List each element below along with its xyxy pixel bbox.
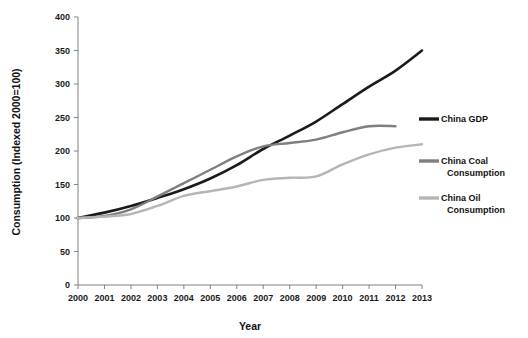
x-tick-label: 2008 [280, 293, 300, 303]
x-tick-label: 2006 [227, 293, 247, 303]
y-tick-label: 200 [55, 146, 70, 156]
x-tick-label: 2009 [306, 293, 326, 303]
x-tick-label: 2001 [94, 293, 114, 303]
y-tick-label: 250 [55, 113, 70, 123]
y-tick-label: 350 [55, 46, 70, 56]
legend-item-china-gdp[interactable]: China GDP [419, 114, 488, 124]
legend-label-china-oil-consumption: China Oil [441, 193, 481, 203]
x-tick-label: 2013 [412, 293, 432, 303]
x-tick-label: 2011 [359, 293, 379, 303]
legend-label-china-oil-consumption-line2: Consumption [447, 205, 505, 215]
x-tick-label: 2005 [200, 293, 220, 303]
y-axis: 050100150200250300350400 [55, 12, 78, 290]
series-lines [78, 51, 422, 219]
chart-legend: China GDPChina CoalConsumptionChina OilC… [419, 114, 505, 215]
x-tick-label: 2003 [147, 293, 167, 303]
x-tick-label: 2004 [174, 293, 194, 303]
x-tick-label: 2007 [253, 293, 273, 303]
y-tick-label: 300 [55, 79, 70, 89]
y-tick-label: 50 [60, 247, 70, 257]
x-tick-label: 2002 [121, 293, 141, 303]
y-tick-label: 150 [55, 180, 70, 190]
x-axis-title: Year [239, 320, 261, 332]
legend-item-china-oil-consumption[interactable]: China OilConsumption [419, 193, 505, 215]
chart-container: 050100150200250300350400 200020012002200… [0, 0, 528, 338]
series-line-china-gdp [78, 51, 422, 219]
legend-item-china-coal-consumption[interactable]: China CoalConsumption [419, 156, 505, 178]
legend-label-china-coal-consumption-line2: Consumption [447, 168, 505, 178]
y-axis-title: Consumption (Indexed 2000=100) [10, 68, 22, 235]
x-tick-label: 2010 [333, 293, 353, 303]
x-axis: 2000200120022003200420052006200720082009… [68, 285, 432, 303]
y-tick-label: 400 [55, 12, 70, 22]
series-line-china-coal-consumption [78, 126, 396, 218]
legend-label-china-gdp: China GDP [441, 114, 488, 124]
x-tick-label: 2000 [68, 293, 88, 303]
legend-label-china-coal-consumption: China Coal [441, 156, 488, 166]
y-tick-label: 0 [65, 280, 70, 290]
x-tick-label: 2012 [386, 293, 406, 303]
y-tick-label: 100 [55, 213, 70, 223]
line-chart: 050100150200250300350400 200020012002200… [0, 0, 528, 338]
